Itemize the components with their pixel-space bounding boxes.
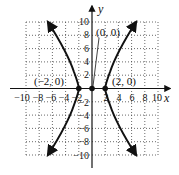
hyperbola-graph: x y −10 −8 −6 −4 −2 2 4 6 8 10 10 8 6 4 … [0,0,179,175]
svg-text:−6: −6 [46,92,57,103]
svg-text:−6: −6 [78,123,89,134]
svg-text:4: 4 [117,92,122,103]
x-axis-label: x [163,91,170,105]
center-label: (0, 0) [96,26,120,39]
point-left-vertex [76,86,82,92]
point-right-vertex [102,86,108,92]
svg-text:−10: −10 [14,92,30,103]
svg-text:10: 10 [79,16,89,27]
svg-text:4: 4 [84,56,89,67]
svg-text:−4: −4 [59,92,70,103]
left-vertex-label: (−2, 0) [34,75,64,88]
svg-text:−8: −8 [78,136,89,147]
svg-text:6: 6 [130,92,135,103]
y-axis-label: y [97,2,104,16]
svg-text:−8: −8 [33,92,44,103]
svg-text:8: 8 [143,92,148,103]
svg-text:2: 2 [84,69,89,80]
right-vertex-label: (2, 0) [112,75,136,88]
svg-text:8: 8 [84,29,89,40]
svg-text:10: 10 [152,92,162,103]
svg-text:−4: −4 [78,110,89,121]
svg-text:−10: −10 [73,150,89,161]
point-center [89,86,95,92]
svg-text:6: 6 [84,43,89,54]
svg-text:−2: −2 [78,97,89,108]
